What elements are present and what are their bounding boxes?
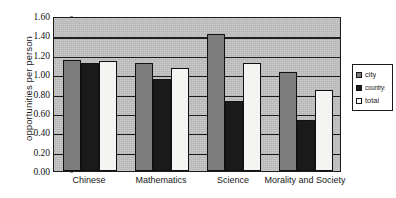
bar [171,68,189,171]
bar [153,79,171,171]
bar [243,63,261,172]
bar [279,72,297,171]
x-category-label: Mathematics [135,175,186,185]
bars-layer [54,18,340,171]
y-tick-label: 1.40 [20,31,50,41]
x-axis-category-labels: ChineseMathematicsScienceMorality and So… [53,175,341,193]
legend-item-city: city [356,69,389,80]
bar [225,101,243,171]
legend-label-total: total [365,96,379,105]
plot-area [53,17,341,172]
y-tick-label: 0.00 [20,167,50,177]
x-category-label: Science [217,175,249,185]
y-axis-tick-labels: 0.000.200.400.600.801.001.201.401.60 [20,17,50,172]
y-tick-label: 0.20 [20,148,50,158]
bar [135,63,153,172]
y-tick-label: 0.40 [20,128,50,138]
legend-swatch-countryside-icon [356,85,362,91]
y-tick-label: 1.60 [20,12,50,22]
y-tick-label: 1.00 [20,70,50,80]
y-tick-label: 1.20 [20,51,50,61]
legend-swatch-city-icon [356,72,362,78]
bar [63,60,81,171]
bar [315,90,333,171]
legend: city countryside total [352,64,393,111]
legend-item-total: total [356,95,389,106]
bar [99,61,117,171]
bar [297,120,315,171]
y-tick-label: 0.80 [20,90,50,100]
bar-chart: opportunities per person 0.000.200.400.6… [0,0,396,198]
legend-label-city: city [365,70,376,79]
x-category-label: Chinese [72,175,105,185]
bar [81,63,99,171]
bar [207,34,225,171]
y-tick-label: 0.60 [20,109,50,119]
x-category-label: Morality and Society [264,175,345,185]
legend-swatch-total-icon [356,98,362,104]
legend-label-countryside: countryside [365,83,385,92]
legend-item-countryside: countryside [356,82,389,93]
